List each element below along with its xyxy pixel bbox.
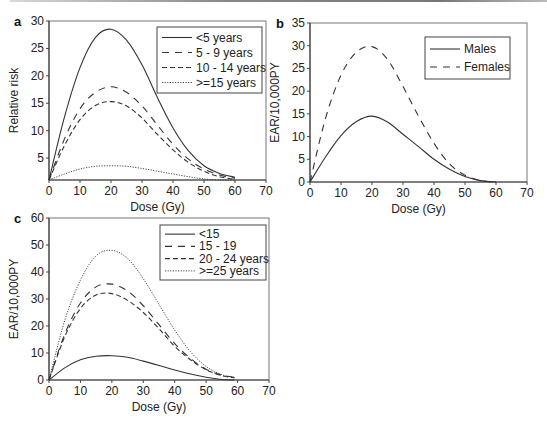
legend-label: Males <box>464 42 496 56</box>
y-tick-label: 30 <box>292 39 306 53</box>
x-tick-label: 10 <box>74 384 88 398</box>
series-line--15 <box>49 356 234 380</box>
series-line-15-19 <box>49 284 234 380</box>
x-tick-label: 0 <box>46 184 53 198</box>
y-tick-label: 25 <box>31 41 45 55</box>
legend-label: 10 - 14 years <box>196 61 266 75</box>
y-axis-title: EAR/10,000PY <box>7 259 21 340</box>
y-tick-label: 50 <box>31 238 45 252</box>
y-axis-title: Relative risk <box>7 67 21 133</box>
x-tick-label: 70 <box>259 184 273 198</box>
legend-label: 5 - 9 years <box>196 46 253 60</box>
x-tick-label: 0 <box>46 384 53 398</box>
series-line-20-24-years <box>49 293 234 380</box>
y-tick-label: 5 <box>37 151 44 165</box>
x-tick-label: 60 <box>489 186 503 200</box>
y-tick-label: 15 <box>292 107 306 121</box>
x-tick-label: 0 <box>307 186 314 200</box>
y-tick-label: 10 <box>31 346 45 360</box>
x-tick-label: 20 <box>365 186 379 200</box>
x-tick-label: 30 <box>396 186 410 200</box>
x-tick-label: 30 <box>137 384 151 398</box>
y-axis-title: EAR/10,000PY <box>268 62 282 143</box>
y-tick-label: 20 <box>31 69 45 83</box>
y-tick-label: 5 <box>298 152 305 166</box>
y-tick-label: 20 <box>31 319 45 333</box>
panel-letter: c <box>14 211 21 226</box>
y-tick-label: 15 <box>31 96 45 110</box>
y-tick-label: 10 <box>31 124 45 138</box>
legend-label: Females <box>464 60 510 74</box>
x-axis-title: Dose (Gy) <box>130 200 185 214</box>
y-tick-label: 30 <box>31 292 45 306</box>
series-line-5-9-years <box>49 87 235 180</box>
y-tick-label: 25 <box>292 61 306 75</box>
y-tick-label: 60 <box>31 211 45 225</box>
y-tick-label: 10 <box>292 130 306 144</box>
y-tick-label: 20 <box>292 84 306 98</box>
x-tick-label: 10 <box>334 186 348 200</box>
x-axis-title: Dose (Gy) <box>391 202 446 216</box>
x-tick-label: 40 <box>166 184 180 198</box>
x-tick-label: 40 <box>168 384 182 398</box>
chart-panel-a: 01020304050607051015202530aDose (Gy)Rela… <box>7 14 273 214</box>
x-tick-label: 20 <box>104 184 118 198</box>
y-tick-label: 35 <box>292 16 306 30</box>
legend-label: >=25 years <box>199 264 259 278</box>
legend-label: <5 years <box>196 31 242 45</box>
x-tick-label: 20 <box>105 384 119 398</box>
chart-panel-c: 0102030405060700102030405060cDose (Gy)EA… <box>7 211 276 414</box>
chart-panel-b: 01020304050607005101520253035bDose (Gy)E… <box>268 16 534 216</box>
x-tick-label: 60 <box>231 384 245 398</box>
y-tick-label: 0 <box>298 175 305 189</box>
x-tick-label: 70 <box>520 186 534 200</box>
x-tick-label: 50 <box>199 384 213 398</box>
panel-letter: a <box>14 14 22 29</box>
series-line-males <box>310 116 496 182</box>
panel-letter: b <box>276 16 284 31</box>
legend-label: >=15 years <box>196 76 256 90</box>
y-tick-label: 0 <box>37 373 44 387</box>
x-tick-label: 40 <box>427 186 441 200</box>
figure-canvas: 01020304050607051015202530aDose (Gy)Rela… <box>0 0 547 432</box>
x-tick-label: 70 <box>262 384 276 398</box>
x-tick-label: 60 <box>228 184 242 198</box>
x-axis-title: Dose (Gy) <box>132 400 187 414</box>
y-tick-label: 40 <box>31 265 45 279</box>
x-tick-label: 50 <box>197 184 211 198</box>
x-tick-label: 30 <box>135 184 149 198</box>
x-tick-label: 10 <box>73 184 87 198</box>
y-tick-label: 30 <box>31 14 45 28</box>
x-tick-label: 50 <box>458 186 472 200</box>
